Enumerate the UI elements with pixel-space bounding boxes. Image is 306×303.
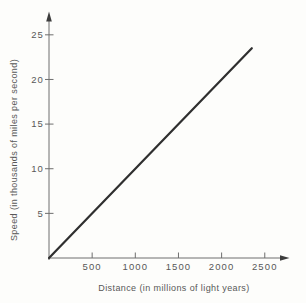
y-tick-label: 15 bbox=[31, 118, 44, 129]
x-axis-ticks: 5001000150020002500 bbox=[83, 253, 278, 272]
chart-canvas: 5001000150020002500 510152025 Distance (… bbox=[0, 0, 306, 303]
x-axis-arrow-icon bbox=[280, 255, 290, 260]
y-tick-label: 10 bbox=[31, 163, 44, 174]
x-tick-label: 2500 bbox=[252, 261, 278, 272]
x-tick-label: 2000 bbox=[209, 261, 235, 272]
speed-vs-distance-line bbox=[49, 48, 252, 258]
y-axis-arrow-icon bbox=[46, 12, 52, 22]
hubble-law-chart: 5001000150020002500 510152025 Distance (… bbox=[0, 0, 306, 303]
y-tick-label: 5 bbox=[38, 208, 44, 219]
y-axis-ticks: 510152025 bbox=[31, 29, 53, 219]
x-tick-label: 1500 bbox=[166, 261, 192, 272]
x-axis-label: Distance (in millions of light years) bbox=[98, 283, 249, 293]
x-tick-label: 500 bbox=[83, 261, 102, 272]
data-series bbox=[49, 48, 252, 258]
x-tick-label: 1000 bbox=[123, 261, 149, 272]
y-tick-label: 20 bbox=[31, 74, 44, 85]
y-axis-label: Speed (in thousands of miles per second) bbox=[9, 59, 19, 241]
y-tick-label: 25 bbox=[31, 29, 44, 40]
